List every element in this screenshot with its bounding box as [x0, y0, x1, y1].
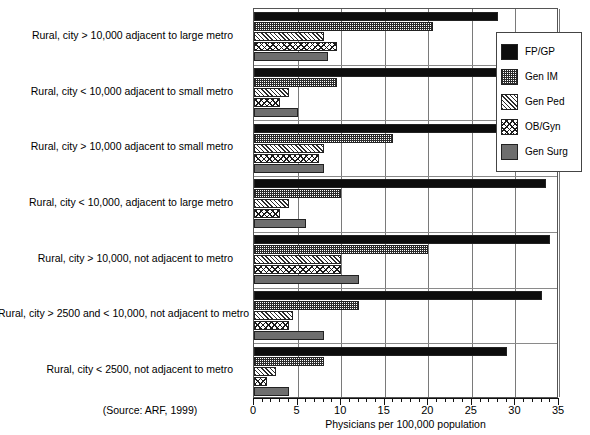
x-tick-label: 20	[412, 404, 442, 416]
x-tick-minor	[506, 398, 507, 402]
bar	[254, 108, 298, 117]
bar	[254, 134, 393, 143]
legend-swatch	[501, 69, 518, 85]
x-tick-minor	[305, 398, 306, 402]
x-tick-minor	[401, 398, 402, 402]
bar	[254, 367, 276, 376]
legend: FP/GPGen IMGen PedOB/GynGen Surg	[496, 32, 582, 172]
x-tick-minor	[436, 398, 437, 402]
x-tick-minor	[541, 398, 542, 402]
bar-group	[254, 343, 557, 399]
bar	[254, 219, 306, 228]
legend-item: Gen IM	[501, 64, 577, 89]
x-tick-minor	[488, 398, 489, 402]
bar-group	[254, 232, 557, 288]
x-tick-minor	[314, 398, 315, 402]
x-tick-minor	[375, 398, 376, 402]
bar	[254, 12, 498, 21]
x-tick-minor	[419, 398, 420, 402]
bar-group	[254, 176, 557, 232]
category-label: Rural, city > 10,000 adjacent to large m…	[0, 29, 233, 41]
legend-swatch	[501, 144, 518, 160]
x-tick-minor	[349, 398, 350, 402]
bar	[254, 68, 498, 77]
x-tick-minor	[549, 398, 550, 402]
x-tick-minor	[445, 398, 446, 402]
x-tick-minor	[392, 398, 393, 402]
x-tick-minor	[288, 398, 289, 402]
x-tick-label: 30	[499, 404, 529, 416]
x-tick-minor	[497, 398, 498, 402]
bar	[254, 164, 324, 173]
x-tick-minor	[480, 398, 481, 402]
legend-item: Gen Surg	[501, 139, 577, 164]
bar	[254, 199, 289, 208]
bar	[254, 321, 289, 330]
x-tick-minor	[331, 398, 332, 402]
x-tick-label: 5	[282, 404, 312, 416]
legend-label: OB/Gyn	[525, 121, 561, 132]
bar	[254, 357, 324, 366]
source-note: (Source: ARF, 1999)	[60, 404, 240, 416]
category-label: Rural, city > 10,000, not adjacent to me…	[0, 252, 233, 264]
bar	[254, 42, 337, 51]
bar	[254, 52, 328, 61]
bar	[254, 124, 520, 133]
x-tick-minor	[462, 398, 463, 402]
x-axis-line	[253, 398, 558, 399]
legend-label: Gen Ped	[525, 96, 564, 107]
bar	[254, 347, 507, 356]
category-label: Rural, city > 10,000 adjacent to small m…	[0, 140, 233, 152]
x-tick-minor	[270, 398, 271, 402]
x-axis-title: Physicians per 100,000 population	[253, 418, 558, 430]
bar	[254, 377, 267, 386]
legend-swatch	[501, 94, 518, 110]
bar	[254, 154, 319, 163]
x-tick-label: 10	[325, 404, 355, 416]
bar-group	[254, 288, 557, 344]
x-tick-minor	[410, 398, 411, 402]
bar	[254, 311, 293, 320]
bar	[254, 235, 550, 244]
bar	[254, 265, 341, 274]
category-label: Rural, city < 2500, not adjacent to metr…	[0, 363, 233, 375]
x-tick-label: 35	[543, 404, 573, 416]
bar-chart: Rural, city > 10,000 adjacent to large m…	[0, 0, 590, 435]
category-label: Rural, city > 2500 and < 10,000, not adj…	[0, 307, 233, 319]
x-tick-minor	[523, 398, 524, 402]
legend-label: FP/GP	[525, 46, 555, 57]
bar	[254, 88, 289, 97]
x-tick-label: 25	[456, 404, 486, 416]
x-tick-label: 0	[238, 404, 268, 416]
bar	[254, 179, 546, 188]
bar	[254, 209, 280, 218]
category-axis-labels: Rural, city > 10,000 adjacent to large m…	[0, 8, 243, 398]
bar	[254, 387, 289, 396]
legend-swatch	[501, 44, 518, 60]
bar	[254, 22, 433, 31]
legend-item: OB/Gyn	[501, 114, 577, 139]
bar	[254, 255, 341, 264]
legend-item: FP/GP	[501, 39, 577, 64]
category-label: Rural, city < 10,000, adjacent to large …	[0, 196, 233, 208]
legend-label: Gen Surg	[525, 146, 568, 157]
bar	[254, 78, 337, 87]
x-tick-minor	[453, 398, 454, 402]
bar	[254, 301, 359, 310]
bar	[254, 331, 324, 340]
legend-label: Gen IM	[525, 71, 558, 82]
bar	[254, 98, 280, 107]
x-tick-minor	[262, 398, 263, 402]
x-tick-minor	[532, 398, 533, 402]
category-label: Rural, city < 10,000 adjacent to small m…	[0, 85, 233, 97]
bar	[254, 189, 341, 198]
x-tick-label: 15	[369, 404, 399, 416]
bar	[254, 291, 542, 300]
bar	[254, 144, 324, 153]
legend-item: Gen Ped	[501, 89, 577, 114]
bar	[254, 245, 428, 254]
bar	[254, 275, 359, 284]
bar	[254, 32, 324, 41]
x-tick-minor	[358, 398, 359, 402]
x-tick-minor	[323, 398, 324, 402]
